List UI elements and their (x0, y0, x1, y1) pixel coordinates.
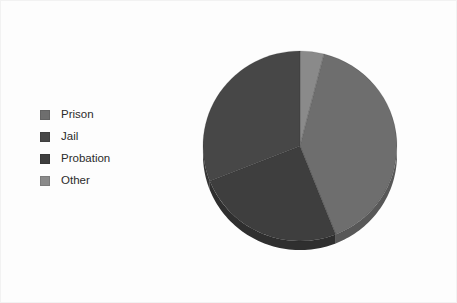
legend-item-jail[interactable]: Jail (40, 126, 170, 148)
chart-legend: Prison Jail Probation Other (40, 104, 170, 192)
legend-swatch-icon (40, 154, 50, 164)
legend-swatch-icon (40, 176, 50, 186)
legend-swatch-icon (40, 110, 50, 120)
pie-chart (201, 34, 399, 258)
legend-item-label: Probation (61, 153, 110, 165)
legend-swatch-icon (40, 132, 50, 142)
legend-item-probation[interactable]: Probation (40, 148, 170, 170)
legend-item-prison[interactable]: Prison (40, 104, 170, 126)
pie-slices (203, 51, 397, 241)
legend-item-label: Jail (61, 131, 78, 143)
pie-chart-svg (201, 34, 399, 258)
chart-canvas: Prison Jail Probation Other (0, 0, 457, 303)
legend-item-label: Other (61, 175, 90, 187)
legend-item-label: Prison (61, 109, 94, 121)
legend-item-other[interactable]: Other (40, 170, 170, 192)
